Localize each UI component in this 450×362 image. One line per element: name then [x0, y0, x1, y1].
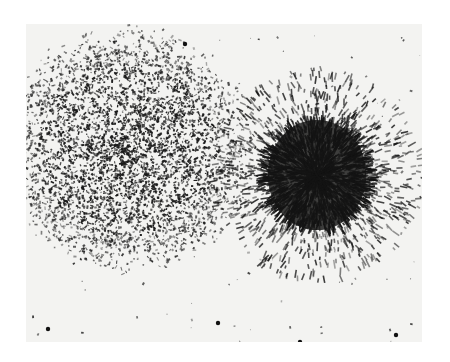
right-colony-radiating	[209, 66, 422, 283]
micrograph-photo	[26, 24, 422, 342]
cell-colonies-image	[26, 24, 422, 342]
left-colony-granular	[26, 24, 256, 275]
